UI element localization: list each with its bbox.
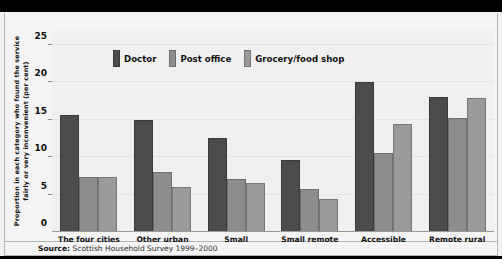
bar: [60, 115, 79, 232]
bar-group: [347, 30, 421, 232]
bar: [429, 97, 448, 232]
legend-label: Doctor: [124, 54, 156, 64]
bar: [355, 82, 374, 232]
bar-group: [420, 30, 494, 232]
bar: [281, 160, 300, 232]
y-tick-label: 5: [41, 181, 47, 190]
y-axis-title-container: Proportion in each category who found th…: [11, 31, 33, 231]
bar: [208, 138, 227, 232]
legend-item: Grocery/food shop: [244, 50, 344, 67]
bar: [134, 120, 153, 232]
chart-panel: Proportion in each category who found th…: [4, 13, 498, 242]
bar: [448, 118, 467, 232]
legend-label: Grocery/food shop: [255, 54, 344, 64]
legend-swatch: [113, 50, 120, 67]
bar: [98, 177, 117, 232]
legend-swatch: [169, 50, 176, 67]
bar: [79, 177, 98, 232]
top-black-band: [0, 0, 502, 12]
bar: [246, 183, 265, 232]
bar: [467, 98, 486, 232]
bar: [319, 199, 338, 232]
source-footer: Source: Scottish Household Survey 1999–2…: [4, 242, 498, 256]
source-text: Scottish Household Survey 1999–2000: [73, 244, 218, 253]
source-note: Source: Scottish Household Survey 1999–2…: [38, 243, 217, 255]
y-tick-label: 25: [34, 31, 47, 40]
bar: [374, 153, 393, 232]
legend-label: Post office: [180, 54, 231, 64]
y-axis-title: Proportion in each category who found th…: [11, 31, 33, 231]
source-label: Source:: [38, 244, 70, 253]
y-tick-label: 20: [34, 69, 47, 78]
chart-page: Proportion in each category who found th…: [0, 0, 502, 259]
legend-item: Doctor: [113, 50, 156, 67]
y-tick-label: 0: [41, 219, 47, 228]
banner-title: [0, 0, 502, 5]
x-axis-line: [52, 231, 494, 232]
y-tick-label: 15: [34, 106, 47, 115]
bar: [172, 187, 191, 232]
bar: [227, 179, 246, 232]
legend-item: Post office: [169, 50, 231, 67]
bar: [300, 189, 319, 232]
y-tick-label: 10: [34, 144, 47, 153]
chart-legend: DoctorPost officeGrocery/food shop: [113, 50, 352, 67]
legend-swatch: [244, 50, 251, 67]
bar: [393, 124, 412, 232]
bar: [153, 172, 172, 232]
